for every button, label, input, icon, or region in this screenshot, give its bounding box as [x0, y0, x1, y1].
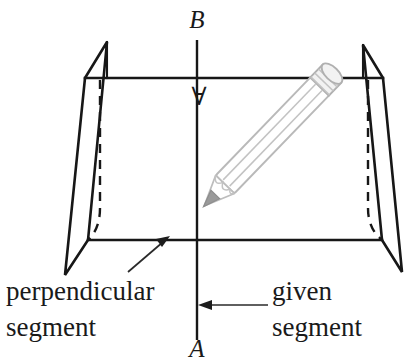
figure-canvas: B ∀ A perpendicular segment given segmen…: [0, 0, 407, 364]
given-segment-label-line1: given: [272, 276, 332, 306]
pencil-barrel: [216, 76, 331, 193]
given-leader-arrowhead: [198, 300, 212, 310]
pencil-facet-line-left: [223, 84, 315, 180]
pencil-facet-line-right: [230, 90, 322, 186]
perpendicular-segment-label-line2: segment: [6, 312, 96, 342]
perpendicular-mark-icon: ∀: [191, 83, 206, 110]
point-label-b: B: [189, 6, 204, 33]
given-segment-label-line2: segment: [272, 312, 362, 342]
point-label-a: A: [187, 335, 205, 362]
perpendicular-segment-label-line1: perpendicular: [6, 276, 154, 306]
geometry-figure: B ∀ A perpendicular segment given segmen…: [0, 0, 407, 364]
pencil-illustration: [194, 60, 346, 216]
perpendicular-leader-line: [128, 242, 163, 272]
